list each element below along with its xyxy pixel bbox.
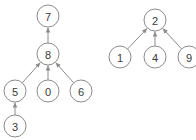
graph-edge	[46, 28, 51, 44]
edge-arrowhead-icon	[46, 66, 51, 71]
node-label: 4	[152, 52, 158, 64]
graph-node-3[interactable]: 3	[4, 115, 26, 137]
graph-node-1[interactable]: 1	[109, 46, 131, 68]
edge-arrowhead-icon	[46, 28, 51, 33]
node-label: 7	[45, 11, 51, 23]
node-label: 0	[45, 86, 51, 98]
graph-node-7[interactable]: 7	[37, 5, 59, 27]
graph-edge	[153, 32, 158, 47]
graph-edge	[56, 63, 74, 83]
node-label: 6	[78, 86, 84, 98]
graph-edge	[163, 28, 182, 48]
graph-edge	[22, 63, 40, 83]
node-label: 9	[186, 52, 192, 64]
node-label: 5	[12, 86, 18, 98]
graph-node-2[interactable]: 2	[144, 9, 166, 31]
node-label: 1	[117, 52, 123, 64]
node-label: 3	[12, 121, 18, 133]
graph-edge	[46, 66, 51, 81]
graph-node-9[interactable]: 9	[178, 46, 196, 68]
node-label: 8	[45, 49, 51, 61]
graph-node-8[interactable]: 8	[37, 43, 59, 65]
graph-canvas: 7850632149	[0, 0, 196, 140]
graph-node-4[interactable]: 4	[144, 46, 166, 68]
graph-edge	[13, 103, 18, 116]
edge-arrowhead-icon	[153, 32, 158, 37]
edge-arrowhead-icon	[13, 103, 18, 108]
graph-node-5[interactable]: 5	[4, 80, 26, 102]
graph-node-0[interactable]: 0	[37, 80, 59, 102]
graph-edge	[128, 28, 148, 49]
graph-node-6[interactable]: 6	[70, 80, 92, 102]
edge-layer	[13, 28, 182, 116]
node-label: 2	[152, 15, 158, 27]
